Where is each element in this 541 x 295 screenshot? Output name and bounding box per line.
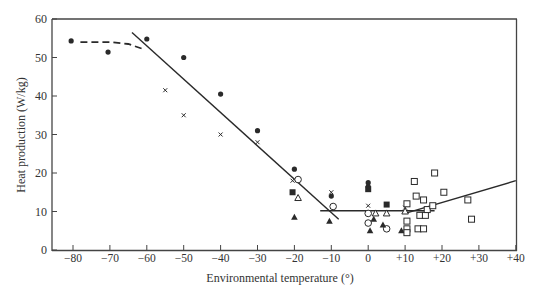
open-circle-marker	[330, 203, 337, 210]
x-tick-label: +40	[507, 252, 525, 264]
cross-marker	[256, 140, 260, 144]
data-points	[69, 36, 475, 235]
filled-circle-marker	[105, 50, 110, 55]
dashed-cold-plateau-line	[80, 42, 143, 49]
y-tick-label: 20	[35, 166, 47, 180]
open-square-marker	[469, 216, 475, 222]
y-tick-label: 40	[35, 89, 47, 103]
x-tick-label: 0	[365, 252, 371, 264]
cross-marker	[182, 113, 186, 117]
open-square-marker	[404, 201, 410, 207]
fit-lines	[80, 33, 515, 220]
cross-marker	[219, 133, 223, 137]
x-tick-label: −10	[322, 252, 340, 264]
y-tick-label: 50	[35, 51, 47, 65]
filled-square-marker	[384, 202, 390, 208]
filled-triangle-marker	[380, 221, 387, 227]
x-tick-label: −80	[64, 252, 82, 264]
x-tick-label: −50	[175, 252, 193, 264]
open-square-marker	[421, 197, 427, 203]
filled-circle-marker	[144, 36, 149, 41]
x-tick-label: −20	[285, 252, 303, 264]
x-tick-label: +30	[470, 252, 488, 264]
open-square-marker	[422, 212, 428, 218]
cross-marker	[163, 88, 167, 92]
x-axis-label: Environmental temperature (°)	[206, 271, 353, 285]
heat-production-chart: 0102030405060 −80−70−60−50−40−30−20−100+…	[0, 0, 541, 295]
x-tick-label: +20	[433, 252, 451, 264]
y-tick-label: 30	[35, 128, 47, 142]
y-axis-label: Heat production (W/kg)	[14, 77, 28, 192]
open-square-marker	[411, 178, 417, 184]
y-ticks: 0102030405060	[35, 12, 57, 257]
filled-square-marker	[290, 189, 296, 195]
filled-circle-marker	[69, 38, 74, 43]
filled-square-marker	[365, 186, 371, 192]
filled-circle-marker	[255, 128, 260, 133]
cross-marker	[366, 204, 370, 208]
filled-circle-marker	[292, 167, 297, 172]
x-tick-label: −40	[212, 252, 230, 264]
open-square-marker	[432, 170, 438, 176]
open-square-marker	[413, 193, 419, 199]
y-tick-label: 60	[35, 12, 47, 26]
metabolic-rise-line	[132, 33, 339, 220]
open-circle-marker	[295, 176, 302, 183]
open-square-marker	[441, 189, 447, 195]
filled-triangle-marker	[291, 214, 298, 220]
x-tick-label: −70	[101, 252, 119, 264]
y-tick-label: 0	[41, 243, 47, 257]
open-square-marker	[430, 203, 436, 209]
open-circle-marker	[365, 210, 372, 217]
x-tick-label: +10	[396, 252, 414, 264]
x-ticks: −80−70−60−50−40−30−20−100+10+20+30+40	[64, 245, 525, 264]
open-square-marker	[404, 218, 410, 224]
open-triangle-marker	[295, 195, 302, 201]
filled-triangle-marker	[367, 227, 374, 233]
filled-circle-marker	[218, 91, 223, 96]
cross-marker	[291, 179, 295, 183]
x-tick-label: −60	[138, 252, 156, 264]
open-square-marker	[404, 230, 410, 236]
open-square-marker	[465, 197, 471, 203]
y-tick-label: 10	[35, 205, 47, 219]
filled-triangle-marker	[370, 216, 377, 222]
open-square-marker	[421, 226, 427, 232]
axes	[52, 19, 517, 251]
x-tick-label: −30	[249, 252, 267, 264]
filled-circle-marker	[181, 55, 186, 60]
open-circle-marker	[365, 220, 372, 227]
filled-triangle-marker	[326, 218, 333, 224]
